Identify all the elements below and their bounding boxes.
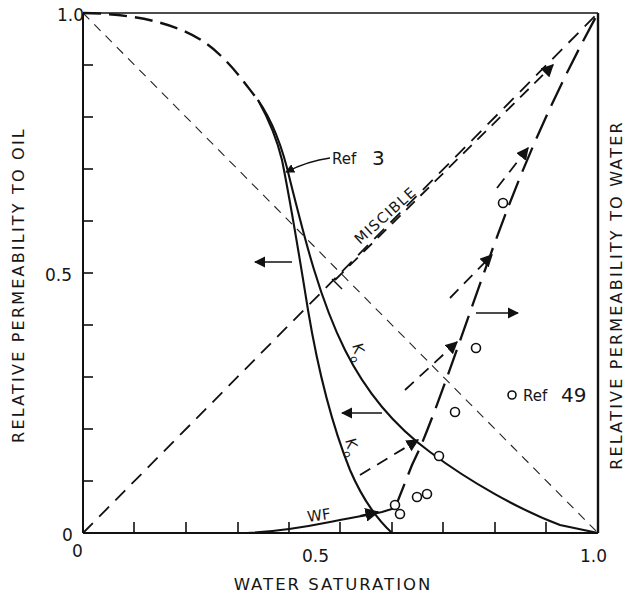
y-tick-label-1: 1.0 — [57, 5, 84, 25]
svg-text:o: o — [347, 354, 361, 364]
y-axis-ticks — [83, 65, 93, 481]
x-tick-label-1: 1.0 — [580, 546, 607, 566]
ref49-number: 49 — [561, 383, 586, 407]
x-axis-ticks — [134, 522, 546, 533]
relative-permeability-chart: 1.0 0.5 0 0 0.5 1.0 WATER SATURATION REL… — [0, 0, 634, 598]
ko-upper-label: K o — [344, 341, 370, 364]
axis-pointer-arrows — [255, 262, 518, 413]
ref3-label: Ref — [332, 150, 357, 168]
ref49-label: Ref — [523, 387, 548, 405]
miscible-tick — [332, 279, 342, 289]
ref3-leader — [286, 158, 330, 172]
y-axis-title-left: RELATIVE PERMEABILITY TO OIL — [9, 127, 28, 443]
y-axis-title-right: RELATIVE PERMEABILITY TO WATER — [607, 120, 626, 470]
ref3-number: 3 — [372, 146, 385, 170]
miscible-water-line — [83, 13, 598, 533]
x-axis-title: WATER SATURATION — [234, 575, 433, 594]
krw-ref3-dashed — [395, 13, 598, 508]
x-tick-label-0: 0 — [72, 541, 83, 561]
miscible-label: MISCIBLE — [351, 184, 419, 248]
x-tick-label-05: 0.5 — [302, 546, 329, 566]
oil-upper-dashed-curve — [83, 13, 258, 100]
y-tick-label-05: 0.5 — [45, 265, 72, 285]
wf-label: WF — [306, 505, 332, 526]
